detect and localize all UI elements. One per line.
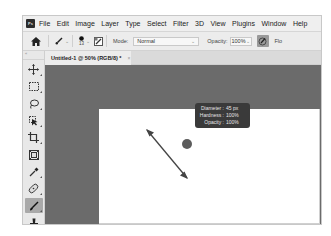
stamp-icon: [29, 218, 39, 226]
clone-stamp-tool[interactable]: [25, 215, 43, 225]
brush-icon: [29, 201, 39, 211]
pasteboard: Diameter : 45 px Hardness : 100% Opacity…: [45, 65, 322, 225]
brush-icon: [55, 37, 63, 45]
hardness-label: Hardness :: [198, 112, 224, 119]
resize-arrow-icon: [143, 126, 203, 186]
tooltip-row-hardness: Hardness : 100%: [198, 112, 247, 119]
hardness-value: 100%: [226, 112, 239, 119]
opacity-input[interactable]: 100% ⌄: [230, 37, 252, 46]
crop-icon: [28, 132, 39, 143]
document-tab[interactable]: Untitled-1 @ 50% (RGB/8) * ×: [45, 51, 131, 65]
menu-window[interactable]: Window: [262, 20, 287, 27]
bandage-icon: [28, 183, 39, 194]
frame-tool[interactable]: [25, 147, 43, 162]
chevron-down-icon: ⌄: [191, 38, 195, 44]
brush-preset-picker[interactable]: 13: [79, 36, 84, 46]
brush-tool[interactable]: [25, 198, 43, 213]
chevron-down-icon: ⌄: [65, 38, 69, 44]
photoshop-window: Ps File Edit Image Layer Type Select Fil…: [22, 15, 322, 225]
pressure-opacity-toggle[interactable]: [257, 35, 269, 47]
tooltip-row-opacity: Opacity : 100%: [198, 119, 247, 126]
menu-file[interactable]: File: [39, 20, 50, 27]
menu-type[interactable]: Type: [125, 20, 140, 27]
menu-filter[interactable]: Filter: [173, 20, 189, 27]
document-canvas[interactable]: Diameter : 45 px Hardness : 100% Opacity…: [99, 109, 320, 224]
move-tool[interactable]: [25, 62, 43, 77]
photoshop-logo-icon: Ps: [26, 19, 35, 28]
mode-label: Mode:: [113, 38, 128, 44]
diameter-value: 45 px: [226, 105, 238, 112]
diameter-label: Diameter :: [198, 105, 224, 112]
brush-size-value: 13: [79, 41, 84, 46]
healing-brush-tool[interactable]: [25, 181, 43, 196]
mode-select[interactable]: Normal ⌄: [133, 37, 199, 46]
tools-panel: «: [23, 51, 45, 225]
menu-help[interactable]: Help: [293, 20, 307, 27]
crop-tool[interactable]: [25, 130, 43, 145]
mode-value: Normal: [137, 38, 155, 44]
pen-pressure-icon: [258, 37, 267, 46]
menu-bar: Ps File Edit Image Layer Type Select Fil…: [23, 16, 321, 31]
home-icon[interactable]: [30, 37, 42, 46]
object-selection-tool[interactable]: [25, 113, 43, 128]
tools-collapse-button[interactable]: «: [23, 51, 44, 60]
marquee-tool[interactable]: [25, 79, 43, 94]
tool-preset-picker[interactable]: ⌄: [55, 37, 69, 45]
tooltip-row-diameter: Diameter : 45 px: [198, 105, 247, 112]
opacity-value: 100%: [232, 38, 246, 44]
menu-3d[interactable]: 3D: [195, 20, 204, 27]
flow-label: Flo: [275, 38, 283, 44]
brush-cursor: [182, 139, 192, 149]
menu-layer[interactable]: Layer: [101, 20, 119, 27]
document-tab-title: Untitled-1 @ 50% (RGB/8) *: [51, 55, 121, 61]
rectangular-marquee-icon: [29, 82, 39, 91]
menu-view[interactable]: View: [211, 20, 226, 27]
chevron-down-icon: ⌄: [86, 38, 90, 44]
lasso-icon: [29, 99, 39, 109]
menu-image[interactable]: Image: [75, 20, 94, 27]
document-tab-bar: Untitled-1 @ 50% (RGB/8) * ×: [45, 51, 322, 65]
menu-select[interactable]: Select: [147, 20, 166, 27]
chevron-down-icon: ⌄: [246, 38, 250, 44]
move-icon: [28, 64, 39, 75]
brush-settings-panel-toggle[interactable]: [94, 37, 103, 46]
eyedropper-icon: [29, 167, 39, 177]
menu-edit[interactable]: Edit: [57, 20, 69, 27]
close-icon[interactable]: ×: [127, 55, 130, 61]
options-bar: ⌄ 13 ⌄ Mode: Normal ⌄ Opacity: 100% ⌄ Fl…: [23, 31, 321, 51]
opacity-tt-label: Opacity :: [198, 119, 224, 126]
eyedropper-tool[interactable]: [25, 164, 43, 179]
opacity-tt-value: 100%: [226, 119, 239, 126]
lasso-tool[interactable]: [25, 96, 43, 111]
object-selection-icon: [29, 116, 39, 126]
frame-icon: [29, 150, 39, 160]
brush-hud-tooltip: Diameter : 45 px Hardness : 100% Opacity…: [195, 103, 250, 128]
opacity-label: Opacity:: [207, 38, 227, 44]
menu-plugins[interactable]: Plugins: [232, 20, 255, 27]
